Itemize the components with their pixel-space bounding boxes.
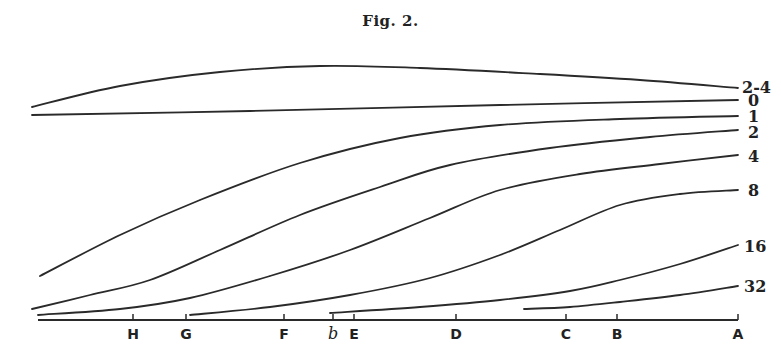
x-axis: HGFbEDCBA: [38, 314, 744, 343]
series-label-8: 8: [748, 181, 759, 200]
curves-group: [32, 66, 738, 315]
tick-label-b: b: [328, 324, 338, 343]
curve-32: [524, 286, 738, 309]
curve-2: [32, 130, 738, 309]
tick-label-A: A: [733, 326, 744, 342]
curve-4: [38, 155, 738, 315]
curve-8: [190, 190, 738, 315]
line-chart: HGFbEDCBA 2-4012481632: [0, 0, 781, 363]
tick-label-F: F: [279, 326, 289, 342]
series-label-4: 4: [748, 147, 759, 166]
tick-label-C: C: [561, 326, 571, 342]
tick-label-D: D: [450, 326, 462, 342]
series-label-16: 16: [744, 237, 766, 256]
tick-label-B: B: [612, 326, 623, 342]
curve-16: [330, 245, 738, 313]
curve-2-4: [32, 66, 738, 107]
curve-1: [40, 116, 738, 276]
series-labels: 2-4012481632: [742, 78, 771, 296]
series-label-2: 2: [748, 123, 759, 142]
tick-label-G: G: [180, 326, 192, 342]
curve-0: [32, 100, 738, 115]
series-label-32: 32: [744, 277, 766, 296]
tick-label-E: E: [349, 326, 359, 342]
tick-label-H: H: [127, 326, 139, 342]
